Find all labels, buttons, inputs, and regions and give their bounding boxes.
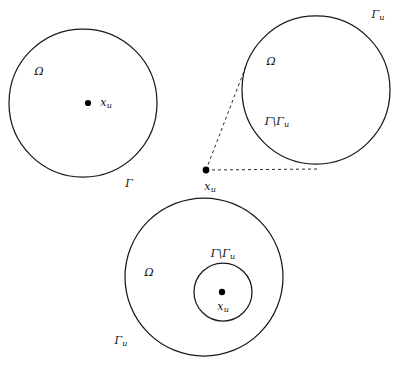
label-omega-topright: Ω bbox=[266, 56, 275, 67]
tangent-ray-upper bbox=[206, 66, 246, 170]
label-gamma-difference-bottom: Γ\Γu bbox=[211, 248, 235, 261]
label-xu-exterior: xu bbox=[204, 181, 216, 194]
diagram-svg bbox=[0, 0, 403, 365]
source-point-dot-left bbox=[85, 100, 91, 106]
label-xu-left: xu bbox=[100, 97, 112, 110]
boundary-gamma-left bbox=[9, 29, 157, 177]
label-omega-left: Ω bbox=[34, 66, 43, 77]
figure-canvas: Ω xu Γ Γu Ω Γ\Γu xu Γ\Γu Ω xu Γu bbox=[0, 0, 403, 365]
tangent-ray-lower bbox=[206, 169, 320, 170]
panel-interior bbox=[9, 29, 157, 177]
source-point-dot-exterior bbox=[203, 167, 210, 174]
label-gamma-u-topright: Γu bbox=[372, 9, 385, 22]
source-point-dot-inner bbox=[219, 289, 225, 295]
label-omega-bottom: Ω bbox=[144, 267, 153, 278]
label-xu-bottom: xu bbox=[217, 301, 229, 314]
label-gamma-left: Γ bbox=[125, 178, 133, 189]
label-gamma-difference-topright: Γ\Γu bbox=[265, 116, 289, 129]
boundary-gamma-u-topright bbox=[242, 16, 390, 164]
label-gamma-u-bottom: Γu bbox=[115, 335, 128, 348]
panel-exterior bbox=[203, 16, 390, 173]
